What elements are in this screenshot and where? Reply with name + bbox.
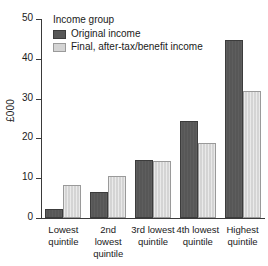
x-label-line-1: 4th lowest bbox=[175, 224, 220, 236]
x-label-line-2: quintile bbox=[131, 236, 176, 248]
x-label-4th-lowest-quintile: 4th lowest quintile bbox=[175, 224, 220, 260]
legend-swatch-original-income bbox=[53, 30, 66, 39]
y-tick-0: 0 bbox=[36, 218, 41, 219]
bar-chart: £000 0 10 20 30 40 50 bbox=[0, 0, 268, 266]
legend-label-final-income: Final, after-tax/benefit income bbox=[71, 41, 203, 53]
bar-group-highest-quintile bbox=[220, 19, 265, 218]
x-axis-category-labels: Lowest quintile 2nd lowest quintile 3rd … bbox=[41, 224, 265, 260]
y-tick-label-0: 0 bbox=[9, 211, 33, 222]
x-label-line-2: quintile bbox=[86, 248, 131, 260]
x-label-line-2: quintile bbox=[41, 236, 86, 248]
x-axis-line bbox=[41, 218, 265, 219]
x-label-line-1: 3rd lowest bbox=[131, 224, 176, 236]
legend-title: Income group bbox=[53, 14, 203, 25]
bar-original-income-4[interactable] bbox=[225, 40, 243, 218]
bar-original-income-1[interactable] bbox=[90, 192, 108, 218]
x-label-3rd-lowest-quintile: 3rd lowest quintile bbox=[131, 224, 176, 260]
legend: Income group Original income Final, afte… bbox=[53, 14, 203, 54]
bar-final-income-1[interactable] bbox=[108, 176, 126, 218]
y-tick-label-20: 20 bbox=[9, 131, 33, 142]
y-tick-label-40: 40 bbox=[9, 52, 33, 63]
x-label-line-2: quintile bbox=[220, 236, 265, 248]
x-label-lowest-quintile: Lowest quintile bbox=[41, 224, 86, 260]
x-label-line-1: 2nd lowest bbox=[86, 224, 131, 248]
y-tick-label-30: 30 bbox=[9, 92, 33, 103]
y-tick-label-10: 10 bbox=[9, 171, 33, 182]
x-label-line-1: Highest bbox=[220, 224, 265, 236]
legend-item-final-income[interactable]: Final, after-tax/benefit income bbox=[53, 41, 203, 53]
x-label-line-1: Lowest bbox=[41, 224, 86, 236]
y-tick-label-50: 50 bbox=[9, 12, 33, 23]
x-label-line-2: quintile bbox=[175, 236, 220, 248]
bar-original-income-0[interactable] bbox=[45, 209, 63, 218]
legend-label-original-income: Original income bbox=[71, 28, 140, 40]
x-label-2nd-lowest-quintile: 2nd lowest quintile bbox=[86, 224, 131, 260]
legend-swatch-final-income bbox=[53, 43, 66, 52]
bar-final-income-2[interactable] bbox=[153, 161, 171, 218]
bar-final-income-3[interactable] bbox=[198, 143, 216, 218]
bar-original-income-2[interactable] bbox=[135, 160, 153, 218]
bar-original-income-3[interactable] bbox=[180, 121, 198, 218]
legend-item-original-income[interactable]: Original income bbox=[53, 28, 203, 40]
bar-final-income-4[interactable] bbox=[243, 91, 261, 218]
x-label-highest-quintile: Highest quintile bbox=[220, 224, 265, 260]
bar-final-income-0[interactable] bbox=[63, 185, 81, 218]
